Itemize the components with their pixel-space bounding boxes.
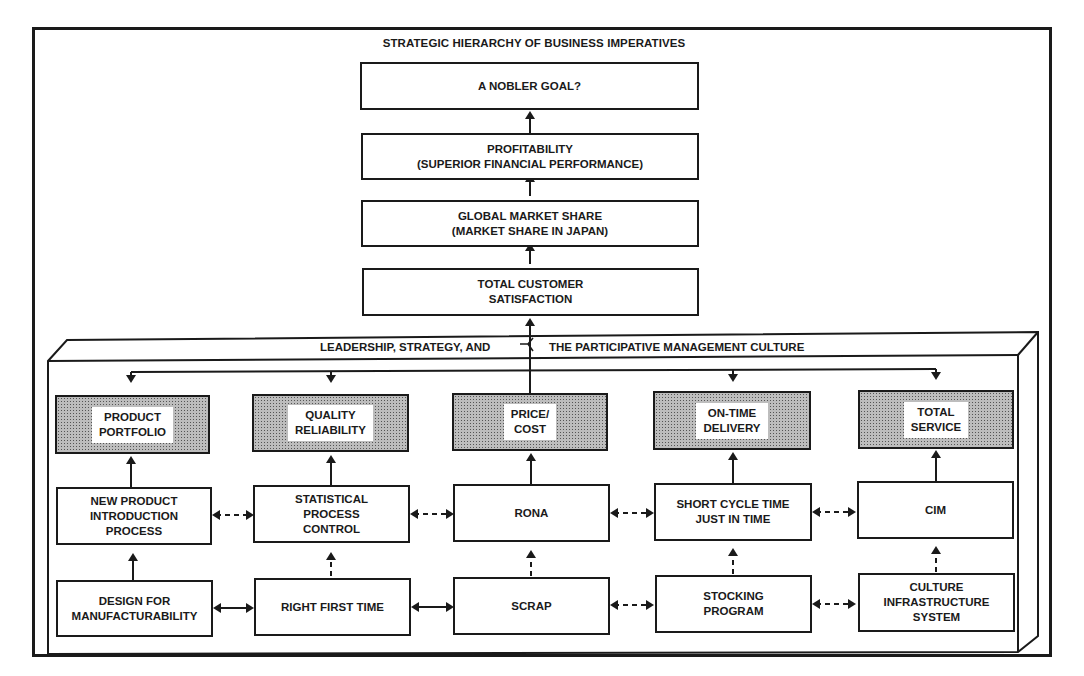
box-label: SHORT CYCLE TIME JUST IN TIME bbox=[676, 497, 789, 527]
box-label: PRODUCT PORTFOLIO bbox=[92, 407, 173, 443]
box-label: PRICE/ COST bbox=[504, 404, 556, 440]
panel-label-right: THE PARTICIPATIVE MANAGEMENT CULTURE bbox=[549, 341, 804, 353]
box-stocking-program: STOCKING PROGRAM bbox=[655, 575, 812, 633]
box-label: QUALITY RELIABILITY bbox=[288, 405, 373, 441]
box-label: CULTURE INFRASTRUCTURE SYSTEM bbox=[883, 580, 989, 625]
box-rona: RONA bbox=[453, 484, 610, 542]
box-label: RONA bbox=[515, 506, 549, 521]
box-price-cost: PRICE/ COST bbox=[452, 393, 608, 451]
box-new-product-introduction: NEW PRODUCT INTRODUCTION PROCESS bbox=[56, 487, 212, 545]
box-label: STOCKING PROGRAM bbox=[703, 589, 764, 619]
box-profitability: PROFITABILITY (SUPERIOR FINANCIAL PERFOR… bbox=[361, 133, 699, 180]
box-on-time-delivery: ON-TIME DELIVERY bbox=[653, 391, 811, 450]
box-label: DESIGN FOR MANUFACTURABILITY bbox=[72, 594, 198, 624]
box-label: STATISTICAL PROCESS CONTROL bbox=[295, 492, 368, 537]
box-label: A NOBLER GOAL? bbox=[478, 79, 581, 94]
box-label: RIGHT FIRST TIME bbox=[281, 600, 384, 615]
box-short-cycle-time: SHORT CYCLE TIME JUST IN TIME bbox=[654, 483, 812, 541]
box-total-service: TOTAL SERVICE bbox=[858, 390, 1014, 449]
box-right-first-time: RIGHT FIRST TIME bbox=[254, 578, 411, 636]
box-global-market-share: GLOBAL MARKET SHARE (MARKET SHARE IN JAP… bbox=[361, 200, 699, 247]
box-culture-infrastructure-system: CULTURE INFRASTRUCTURE SYSTEM bbox=[858, 573, 1015, 632]
panel-label-left: LEADERSHIP, STRATEGY, AND bbox=[320, 341, 490, 353]
box-label: ON-TIME DELIVERY bbox=[696, 403, 767, 439]
box-label: TOTAL CUSTOMER SATISFACTION bbox=[478, 277, 584, 307]
box-design-for-manufacturability: DESIGN FOR MANUFACTURABILITY bbox=[56, 580, 213, 637]
box-label: TOTAL SERVICE bbox=[904, 402, 968, 438]
box-cim: CIM bbox=[857, 481, 1014, 539]
box-label: GLOBAL MARKET SHARE (MARKET SHARE IN JAP… bbox=[452, 209, 608, 239]
box-total-customer-satisfaction: TOTAL CUSTOMER SATISFACTION bbox=[362, 268, 699, 316]
box-quality-reliability: QUALITY RELIABILITY bbox=[252, 394, 409, 452]
box-label: PROFITABILITY (SUPERIOR FINANCIAL PERFOR… bbox=[417, 142, 643, 172]
panel-inner-top bbox=[48, 355, 1018, 361]
panel-bevel-top bbox=[1018, 332, 1038, 355]
box-scrap: SCRAP bbox=[453, 577, 610, 635]
box-label: SCRAP bbox=[511, 599, 551, 614]
box-nobler-goal: A NOBLER GOAL? bbox=[360, 62, 699, 110]
box-label: NEW PRODUCT INTRODUCTION PROCESS bbox=[90, 494, 178, 539]
box-product-portfolio: PRODUCT PORTFOLIO bbox=[55, 395, 210, 454]
box-label: CIM bbox=[925, 503, 946, 518]
box-statistical-process-control: STATISTICAL PROCESS CONTROL bbox=[253, 485, 410, 543]
